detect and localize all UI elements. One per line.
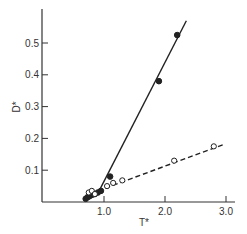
y-axis-label: D*	[11, 101, 22, 112]
y-tick-label: 0.2	[25, 133, 39, 144]
x-ticks: 1.02.03.0	[97, 196, 233, 217]
y-tick-label: 0.3	[25, 101, 39, 112]
y-tick-label: 0.4	[25, 69, 39, 80]
x-tick-label: 1.0	[97, 206, 111, 217]
filled-data-point	[98, 188, 104, 194]
x-tick-label: 2.0	[158, 206, 172, 217]
data-points	[83, 32, 217, 201]
y-ticks: 0.10.20.30.40.5	[25, 38, 48, 176]
filled-data-point	[174, 32, 180, 38]
filled-fit-line	[97, 21, 187, 196]
open-data-point	[92, 191, 97, 196]
filled-data-point	[156, 78, 162, 84]
y-tick-label: 0.1	[25, 165, 39, 176]
filled-data-point	[107, 174, 113, 180]
open-data-point	[172, 158, 177, 163]
open-data-point	[104, 184, 109, 189]
axes	[42, 9, 235, 202]
fit-lines	[97, 21, 223, 196]
x-axis-label: T*	[139, 217, 149, 228]
open-data-point	[111, 180, 116, 185]
x-tick-label: 3.0	[219, 206, 233, 217]
y-tick-label: 0.5	[25, 38, 39, 49]
open-data-point	[211, 144, 216, 149]
open-fit-line	[98, 145, 223, 191]
open-data-point	[120, 178, 125, 183]
chart: 0.10.20.30.40.5 1.02.03.0 T* D*	[0, 0, 247, 234]
